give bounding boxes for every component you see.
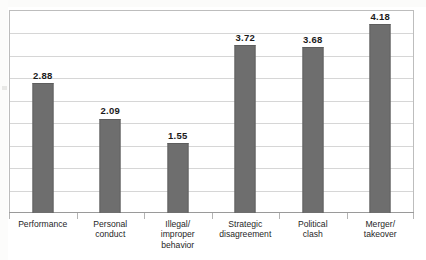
scan-artifact-top: [0, 0, 426, 7]
bar[interactable]: [100, 119, 121, 213]
bar-value-label: 3.72: [236, 32, 255, 43]
bar[interactable]: [32, 83, 53, 213]
bar-value-label: 2.09: [101, 105, 120, 116]
category-label: Performance: [9, 219, 77, 229]
bar-value-label: 1.55: [168, 130, 187, 141]
bar-value-label: 2.88: [33, 70, 52, 81]
bar-column: 2.88: [9, 10, 77, 213]
bar-column: 4.18: [347, 10, 415, 213]
scan-artifact-left: [0, 0, 8, 260]
bar[interactable]: [302, 47, 323, 213]
category-label: Merger/ takeover: [347, 219, 415, 240]
bar-column: 2.09: [77, 10, 145, 213]
bar[interactable]: [370, 24, 391, 213]
bar[interactable]: [167, 143, 188, 213]
category-label: Political clash: [279, 219, 347, 240]
bar[interactable]: [235, 45, 256, 213]
bar-column: 3.72: [212, 10, 280, 213]
bars-layer: 2.88 2.09 1.55 3.72 3.68 4.18: [9, 10, 414, 213]
bar-column: 3.68: [279, 10, 347, 213]
category-label: Illegal/ improper behavior: [144, 219, 212, 250]
category-label: Personal conduct: [77, 219, 145, 240]
bar-chart: 2.88 2.09 1.55 3.72 3.68 4.18 Performanc: [0, 0, 426, 260]
category-label: Strategic disagreement: [212, 219, 280, 240]
bar-value-label: 3.68: [303, 34, 322, 45]
scan-artifact-speck: [2, 86, 7, 90]
bar-value-label: 4.18: [371, 11, 390, 22]
bar-column: 1.55: [144, 10, 212, 213]
